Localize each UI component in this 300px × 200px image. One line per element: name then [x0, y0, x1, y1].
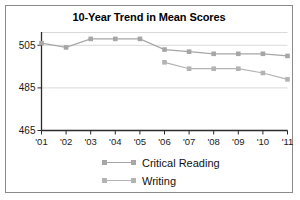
chart-legend: Critical Reading Writing [102, 154, 282, 190]
legend-label-critical-reading: Critical Reading [142, 157, 220, 169]
x-axis-tick-labels: '01'02'03'04'05'06'07'08'09'10'11 [35, 136, 293, 147]
x-tick-label-07: '07 [183, 136, 195, 147]
data-point-marker[interactable] [285, 54, 290, 59]
x-tick-label-02: '02 [60, 136, 72, 147]
data-point-marker[interactable] [138, 37, 143, 42]
y-tick-label-505: 505 [19, 40, 36, 51]
x-tick-label-09: '09 [232, 136, 244, 147]
x-tick-label-10: '10 [257, 136, 269, 147]
data-series-group [39, 37, 290, 82]
x-tick-label-03: '03 [85, 136, 97, 147]
x-tick-label-04: '04 [109, 136, 121, 147]
data-point-marker[interactable] [285, 77, 290, 82]
data-point-marker[interactable] [211, 66, 216, 71]
x-tick-label-05: '05 [134, 136, 146, 147]
legend-swatch-writing [102, 176, 136, 186]
data-point-marker[interactable] [187, 49, 192, 54]
legend-item-critical-reading[interactable]: Critical Reading [102, 154, 282, 172]
x-tick-label-06: '06 [158, 136, 170, 147]
data-point-marker[interactable] [39, 41, 44, 46]
data-point-marker[interactable] [64, 45, 69, 50]
x-tick-label-08: '08 [208, 136, 220, 147]
y-axis-tick-labels: 465485505 [19, 40, 36, 136]
data-point-marker[interactable] [162, 47, 167, 52]
data-point-marker[interactable] [211, 52, 216, 57]
x-tick-label-01: '01 [35, 136, 47, 147]
legend-item-writing[interactable]: Writing [102, 172, 282, 190]
y-tick-label-465: 465 [19, 125, 36, 136]
chart-figure: 10-Year Trend in Mean Scores 465485505 '… [5, 5, 293, 193]
gridlines-group [42, 33, 288, 131]
series-line-writing [165, 62, 288, 79]
data-point-marker[interactable] [261, 71, 266, 76]
legend-label-writing: Writing [142, 175, 176, 187]
data-point-marker[interactable] [236, 66, 241, 71]
data-point-marker[interactable] [261, 52, 266, 57]
legend-swatch-critical-reading [102, 158, 136, 168]
data-point-marker[interactable] [162, 60, 167, 65]
x-tick-label-11: '11 [282, 136, 294, 147]
y-tick-label-485: 485 [19, 82, 36, 93]
data-point-marker[interactable] [88, 37, 93, 42]
data-point-marker[interactable] [187, 66, 192, 71]
data-point-marker[interactable] [113, 37, 118, 42]
data-point-marker[interactable] [236, 52, 241, 57]
